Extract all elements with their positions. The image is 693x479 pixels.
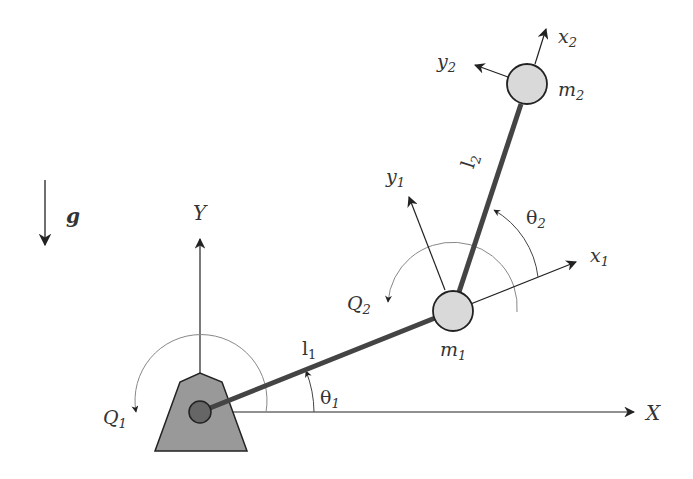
x2-axis-arrow-icon (535, 29, 546, 64)
x1-label: x1 (590, 244, 609, 269)
m2-label: m2 (558, 78, 584, 103)
theta1-label: θ1 (320, 386, 340, 411)
theta2-label: θ2 (526, 206, 546, 231)
y2-label: y2 (436, 50, 456, 75)
m1-label: m1 (440, 338, 466, 363)
mass-1 (433, 291, 473, 331)
angle-theta1: θ1 (306, 371, 340, 412)
base-pivot-icon (189, 401, 211, 423)
local-frame-2: x2 y2 (436, 25, 577, 77)
y2-axis-arrow-icon (475, 65, 508, 77)
gravity-label: g (66, 204, 80, 228)
x-axis-label: X (644, 401, 661, 425)
angle-theta2: θ2 (494, 206, 546, 277)
local-frame-1: x1 y1 (385, 165, 609, 311)
gravity-indicator: g (45, 180, 80, 245)
link-2 (459, 104, 521, 292)
y1-label: y1 (385, 165, 405, 190)
l1-label: l1 (302, 337, 316, 362)
manipulator-diagram: g X Y Q1 θ1 l1 Q2 x1 y1 θ2 (0, 0, 693, 479)
global-x-axis: X (200, 401, 661, 425)
l2-label: l2 (456, 150, 484, 171)
q2-label: Q2 (347, 292, 371, 317)
q1-label: Q1 (103, 406, 127, 431)
y-axis-label: Y (193, 201, 208, 225)
theta1-arc-icon (306, 371, 314, 412)
mass-2 (507, 64, 547, 104)
torque-q2: Q2 (347, 242, 517, 317)
x2-label: x2 (558, 25, 577, 50)
